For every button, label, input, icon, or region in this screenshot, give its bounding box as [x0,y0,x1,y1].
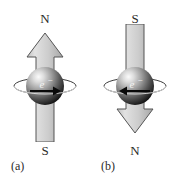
panel-b-electron-sphere [116,67,154,105]
panel-a: N [0,0,90,180]
panel-b-caption: (b) [101,160,115,172]
panel-a-electron-sphere [26,67,64,105]
panel-a-bottom-pole-label: S [0,144,90,157]
panel-b: S [90,0,180,180]
panel-b-electron-symbol: e [130,78,135,90]
panel-a-electron-charge: − [47,75,52,85]
panel-a-caption: (a) [11,160,24,172]
panel-a-artwork: e − [0,24,90,142]
panel-b-svg: e − [90,24,180,142]
panel-b-electron-charge: − [137,75,142,85]
panel-a-electron-symbol: e [40,78,45,90]
panel-b-artwork: e − [90,24,180,142]
panel-a-svg: e − [0,24,90,142]
spin-figure: N [0,0,181,180]
panel-b-bottom-pole-label: N [90,144,180,157]
